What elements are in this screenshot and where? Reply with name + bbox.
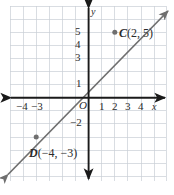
- y-tick-5: 5: [75, 26, 81, 37]
- point-marker-d: [34, 135, 39, 140]
- y-tick-3: 3: [75, 52, 81, 63]
- coordinate-plane-figure: 5 4 3 1 −2 −4 −3 1 2 3 4 O x y C(2, 5) D…: [0, 0, 174, 195]
- x-tick-neg3: −3: [31, 101, 43, 112]
- x-axis-label: x: [152, 102, 156, 112]
- origin-label: O: [79, 100, 87, 111]
- point-label-c-coords: (2, 5): [127, 26, 153, 40]
- point-label-d-name: D: [29, 146, 38, 160]
- y-axis-label: y: [91, 7, 95, 17]
- x-tick-1: 1: [99, 101, 105, 112]
- y-tick-4: 4: [75, 39, 81, 50]
- point-label-c: C(2, 5): [119, 27, 153, 39]
- x-tick-2: 2: [112, 101, 118, 112]
- y-tick-1: 1: [76, 78, 82, 89]
- point-marker-c: [112, 30, 117, 35]
- x-tick-4: 4: [138, 101, 144, 112]
- point-label-c-name: C: [119, 26, 127, 40]
- point-label-d: D(−4, −3): [29, 147, 77, 159]
- y-tick-neg2: −2: [70, 117, 82, 128]
- x-tick-neg4: −4: [16, 101, 28, 112]
- x-tick-3: 3: [125, 101, 131, 112]
- point-label-d-coords: (−4, −3): [38, 146, 78, 160]
